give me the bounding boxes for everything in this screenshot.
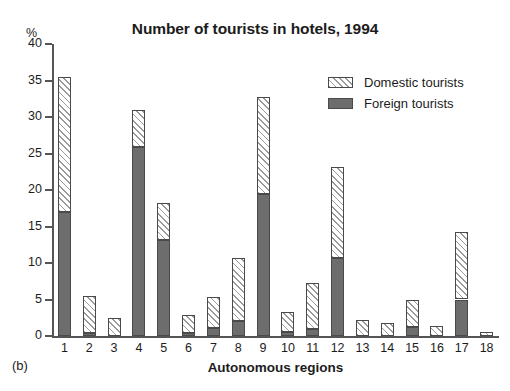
y-tick-label-text: 35 xyxy=(16,74,42,87)
bar-segment-domestic[interactable] xyxy=(182,315,195,333)
y-tick-label: 10 xyxy=(14,256,42,269)
bar-segment-foreign[interactable] xyxy=(132,147,145,336)
bar-segment-domestic[interactable] xyxy=(356,320,369,336)
bar-group[interactable] xyxy=(207,44,220,336)
bar-segment-domestic[interactable] xyxy=(406,300,419,328)
y-tick-label-text: 0 xyxy=(16,329,42,342)
x-tick-label: 1 xyxy=(52,341,76,355)
x-tick-label: 10 xyxy=(276,341,300,355)
x-tick-label: 8 xyxy=(226,341,250,355)
legend-item-label: Domestic tourists xyxy=(364,75,464,90)
y-tick-label: 15 xyxy=(14,220,42,233)
y-tick-mark xyxy=(45,262,52,264)
x-tick-label: 11 xyxy=(301,341,325,355)
panel-label: (b) xyxy=(12,358,28,373)
legend-item[interactable]: Foreign tourists xyxy=(328,93,498,114)
x-axis-title: Autonomous regions xyxy=(52,360,499,375)
x-tick-label: 7 xyxy=(201,341,225,355)
y-tick-mark xyxy=(45,153,52,155)
y-tick-label: 35 xyxy=(14,74,42,87)
bar-segment-foreign[interactable] xyxy=(232,321,245,336)
bar-segment-domestic[interactable] xyxy=(455,232,468,300)
x-tick-label: 2 xyxy=(77,341,101,355)
bar-segment-domestic[interactable] xyxy=(232,258,245,322)
x-tick-label: 3 xyxy=(102,341,126,355)
bar-segment-foreign[interactable] xyxy=(455,300,468,337)
y-tick-label-text: 40 xyxy=(16,37,42,50)
x-tick-label: 14 xyxy=(375,341,399,355)
y-tick-label: 25 xyxy=(14,147,42,160)
legend-swatch-foreign-icon xyxy=(328,98,353,109)
legend-item[interactable]: Domestic tourists xyxy=(328,72,498,93)
y-tick-mark xyxy=(45,226,52,228)
bar-group[interactable] xyxy=(58,44,71,336)
bar-group[interactable] xyxy=(281,44,294,336)
bar-group[interactable] xyxy=(157,44,170,336)
x-tick-label: 13 xyxy=(350,341,374,355)
x-tick-label: 16 xyxy=(425,341,449,355)
bar-segment-domestic[interactable] xyxy=(207,297,220,328)
chart-legend: Domestic touristsForeign tourists xyxy=(328,72,498,114)
bar-segment-domestic[interactable] xyxy=(108,318,121,336)
y-tick-mark xyxy=(45,335,52,337)
bar-segment-domestic[interactable] xyxy=(381,323,394,336)
bar-group[interactable] xyxy=(108,44,121,336)
bar-segment-foreign[interactable] xyxy=(281,332,294,336)
y-tick-label: 30 xyxy=(14,110,42,123)
bar-segment-domestic[interactable] xyxy=(480,332,493,336)
chart-title: Number of tourists in hotels, 1994 xyxy=(0,20,510,38)
bar-group[interactable] xyxy=(182,44,195,336)
y-tick-label: 5 xyxy=(14,293,42,306)
y-tick-mark xyxy=(45,80,52,82)
legend-item-label: Foreign tourists xyxy=(364,96,454,111)
bar-segment-domestic[interactable] xyxy=(281,312,294,332)
x-tick-label: 12 xyxy=(326,341,350,355)
y-axis-line xyxy=(52,44,54,337)
y-tick-label: 40 xyxy=(14,37,42,50)
bar-group[interactable] xyxy=(232,44,245,336)
bar-segment-foreign[interactable] xyxy=(257,194,270,336)
x-tick-label: 9 xyxy=(251,341,275,355)
y-tick-mark xyxy=(45,299,52,301)
bar-segment-foreign[interactable] xyxy=(182,333,195,336)
x-tick-label: 5 xyxy=(152,341,176,355)
x-axis-line xyxy=(52,336,499,338)
y-tick-label-text: 20 xyxy=(16,183,42,196)
y-tick-label-text: 5 xyxy=(16,293,42,306)
bar-group[interactable] xyxy=(306,44,319,336)
bar-segment-domestic[interactable] xyxy=(83,296,96,333)
bar-segment-domestic[interactable] xyxy=(58,77,71,212)
y-tick-label-text: 15 xyxy=(16,220,42,233)
x-tick-label: 17 xyxy=(450,341,474,355)
bar-segment-foreign[interactable] xyxy=(58,212,71,336)
legend-swatch-domestic-icon xyxy=(328,77,353,88)
bar-segment-foreign[interactable] xyxy=(157,240,170,336)
bar-segment-domestic[interactable] xyxy=(132,110,145,147)
x-tick-label: 15 xyxy=(400,341,424,355)
y-tick-mark xyxy=(45,116,52,118)
y-tick-label-text: 25 xyxy=(16,147,42,160)
bar-segment-domestic[interactable] xyxy=(157,203,170,240)
bar-segment-foreign[interactable] xyxy=(306,329,319,336)
bar-segment-foreign[interactable] xyxy=(331,258,344,336)
bar-group[interactable] xyxy=(257,44,270,336)
bar-segment-domestic[interactable] xyxy=(430,326,443,336)
x-tick-label: 4 xyxy=(127,341,151,355)
y-tick-label: 20 xyxy=(14,183,42,196)
y-tick-label-text: 30 xyxy=(16,110,42,123)
y-tick-label: 0 xyxy=(14,329,42,342)
bar-group[interactable] xyxy=(132,44,145,336)
bar-segment-domestic[interactable] xyxy=(331,167,344,258)
bar-segment-foreign[interactable] xyxy=(207,328,220,336)
bar-segment-foreign[interactable] xyxy=(83,333,96,336)
bar-segment-domestic[interactable] xyxy=(306,283,319,328)
y-tick-mark xyxy=(45,43,52,45)
y-tick-label-text: 10 xyxy=(16,256,42,269)
x-tick-label: 18 xyxy=(475,341,499,355)
y-tick-mark xyxy=(45,189,52,191)
x-tick-label: 6 xyxy=(177,341,201,355)
bar-segment-foreign[interactable] xyxy=(406,327,419,336)
chart-figure: Number of tourists in hotels, 1994 % 051… xyxy=(0,0,510,391)
bar-segment-domestic[interactable] xyxy=(257,97,270,194)
bar-group[interactable] xyxy=(83,44,96,336)
